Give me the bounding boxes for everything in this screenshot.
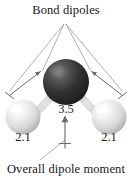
bond-dipole-arrow-left (6, 72, 41, 99)
electronegativity-label-hydrogen-left: 2.1 (3, 131, 43, 144)
caption-overall-dipole-moment: Overall dipole moment (0, 163, 132, 176)
overall-dipole-arrow (60, 116, 71, 149)
leader-lines-bond-dipoles (10, 24, 123, 91)
atom-oxygen (43, 59, 89, 105)
bond-dipole-diagram: Bond dipoles 3.5 2.1 2.1 Overall dipole … (0, 0, 132, 180)
leader-line-overall-dipole (40, 140, 65, 160)
diagram-graphics (0, 0, 132, 180)
bond-dipole-arrow-right (92, 72, 127, 99)
electronegativity-label-oxygen: 3.5 (0, 103, 132, 116)
title-bond-dipoles: Bond dipoles (0, 4, 132, 17)
electronegativity-label-hydrogen-right: 2.1 (89, 131, 129, 144)
